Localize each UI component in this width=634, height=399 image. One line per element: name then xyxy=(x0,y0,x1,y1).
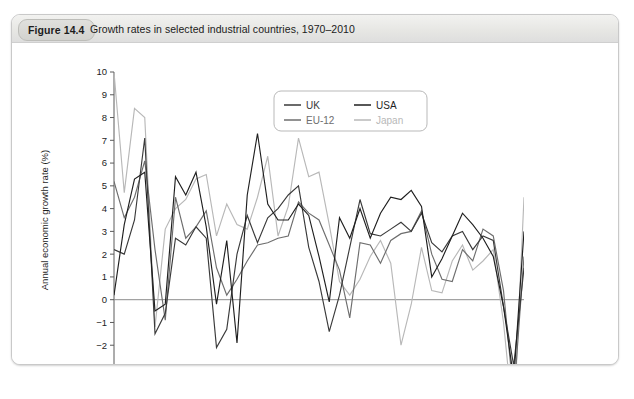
y-axis-tick-label: 7 xyxy=(102,135,107,146)
figure-card: Figure 14.4 Growth rates in selected ind… xyxy=(11,14,619,365)
y-axis-tick-label: 9 xyxy=(102,89,107,100)
legend-label-eu-12: EU-12 xyxy=(306,115,335,126)
y-axis-title-label: Annual economic growth rate (%) xyxy=(39,150,50,290)
figure-header: Figure 14.4 Growth rates in selected ind… xyxy=(12,15,618,43)
y-axis-tick-label: 2 xyxy=(102,249,107,260)
y-axis-title: Annual economic growth rate (%) xyxy=(39,150,50,290)
legend-label-uk: UK xyxy=(306,100,320,111)
y-axis-tick-label: 0 xyxy=(102,294,107,305)
y-axis-tick-label: −2 xyxy=(96,340,107,351)
y-axis-tick-label: −1 xyxy=(96,317,107,328)
figure-number-badge: Figure 14.4 xyxy=(18,19,95,41)
chart-legend: UKUSAEU-12Japan xyxy=(274,91,427,131)
y-axis-tick-label: −3 xyxy=(96,362,107,365)
legend-label-usa: USA xyxy=(376,100,397,111)
legend-box xyxy=(274,91,427,131)
chart-container: −3−2−1012345678910 197019751980198519901… xyxy=(12,43,619,365)
y-axis-group: −3−2−1012345678910 xyxy=(96,66,114,365)
figure-body: −3−2−1012345678910 197019751980198519901… xyxy=(12,43,618,364)
y-axis-tick-label: 5 xyxy=(102,180,107,191)
y-axis-tick-label: 10 xyxy=(96,66,107,77)
growth-rate-line-chart: −3−2−1012345678910 197019751980198519901… xyxy=(12,43,619,365)
legend-label-japan: Japan xyxy=(376,115,403,126)
y-axis-tick-label: 6 xyxy=(102,157,107,168)
y-axis-tick-label: 4 xyxy=(102,203,107,214)
page-root: Figure 14.4 Growth rates in selected ind… xyxy=(0,0,634,399)
y-axis-tick-label: 1 xyxy=(102,271,107,282)
series-line-eu-12 xyxy=(114,161,524,365)
y-axis-tick-label: 8 xyxy=(102,112,107,123)
y-axis-tick-label: 3 xyxy=(102,226,107,237)
figure-caption: Growth rates in selected industrial coun… xyxy=(90,15,610,43)
